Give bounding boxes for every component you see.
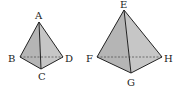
vertex-label-g: G xyxy=(127,77,135,88)
face-acd xyxy=(39,22,63,69)
vertex-label-h: H xyxy=(164,53,173,64)
tetrahedron-efgh: E F G H xyxy=(86,0,173,88)
face-abc xyxy=(20,22,41,69)
vertex-label-d: D xyxy=(65,53,73,64)
vertex-label-a: A xyxy=(34,10,43,21)
vertex-label-c: C xyxy=(38,71,46,82)
diagram-canvas: A B C D E F G H xyxy=(0,0,182,95)
vertex-label-f: F xyxy=(86,53,93,64)
vertex-label-b: B xyxy=(8,53,15,64)
vertex-label-e: E xyxy=(120,0,127,10)
tetrahedron-abcd: A B C D xyxy=(8,10,73,82)
